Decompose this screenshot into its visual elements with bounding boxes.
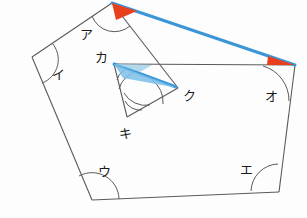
edge-e-o [279, 65, 295, 192]
angle-arc-e [251, 164, 278, 191]
edge-a-i [32, 3, 112, 57]
vertex-label-ku: ク [183, 88, 196, 103]
wedge-angle-a [112, 3, 137, 20]
angle-arc-ki-outer [124, 93, 150, 105]
vertex-label-a: ア [80, 27, 93, 42]
vertex-label-e: エ [240, 162, 253, 177]
vertex-labels: ア イ ウ エ オ カ ク キ [52, 27, 278, 179]
vertex-label-i: イ [52, 67, 65, 82]
vertex-label-ki: キ [119, 126, 132, 141]
wedge-angle-o [267, 56, 295, 65]
vertex-label-ka: カ [95, 50, 108, 65]
highlight-line-a-o [112, 3, 295, 65]
vertex-label-o: オ [265, 89, 278, 104]
geometry-figure: ア イ ウ エ オ カ ク キ [0, 0, 307, 218]
geometry-canvas: ア イ ウ エ オ カ ク キ [0, 0, 307, 218]
edge-u-e [92, 192, 279, 200]
vertex-label-u: ウ [98, 164, 111, 179]
